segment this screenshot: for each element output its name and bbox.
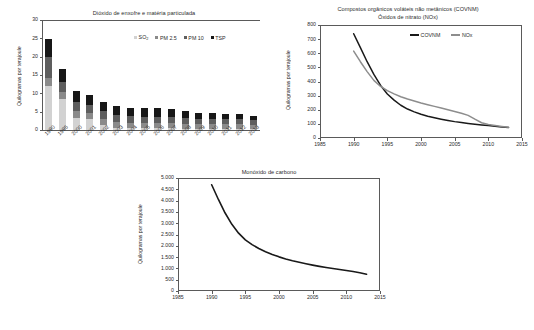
chart3-title: Monóxido de carbono — [134, 169, 404, 177]
y-tick-label: 5.000 — [154, 175, 174, 180]
y-tick-label: 500 — [154, 277, 174, 282]
bar-segment — [141, 117, 148, 123]
x-tick-label: 2000 — [414, 142, 428, 147]
bar-segment — [73, 102, 80, 111]
bar — [45, 20, 52, 130]
y-tick-label: 700 — [303, 37, 316, 42]
bar-segment — [236, 114, 243, 119]
series-line — [354, 34, 509, 128]
x-tick-label: 1995 — [238, 295, 252, 300]
chart2-title-line1: Compostos orgânicos voláteis não metânic… — [284, 6, 532, 14]
bar — [86, 20, 93, 130]
series-layer — [178, 178, 380, 291]
chart1-y-tick-label: 5 — [24, 109, 38, 114]
chart2-y-axis-label: Quilogramas por terajoule — [285, 34, 291, 126]
bar-segment — [86, 113, 93, 120]
x-tick-label: 2005 — [448, 142, 462, 147]
y-tick-label: 500 — [303, 65, 316, 70]
series-line — [212, 185, 367, 275]
x-tick-label: 2005 — [306, 295, 320, 300]
y-tick-label: 800 — [303, 22, 316, 27]
bar — [141, 20, 148, 130]
bar-segment — [195, 113, 202, 119]
x-tick-label: 2010 — [339, 295, 353, 300]
bar — [195, 20, 202, 130]
y-tick-label: 2.000 — [154, 243, 174, 248]
chart1-y-axis-label: Quilogramas por terajoule — [16, 30, 22, 122]
chart2-title-line2: Óxidos de nitrato (NOx) — [284, 14, 532, 22]
bar — [250, 20, 257, 130]
bar — [209, 20, 216, 130]
bar-segment — [127, 108, 134, 117]
chart1-y-tick — [40, 130, 43, 131]
bar — [100, 20, 107, 130]
bar-segment — [154, 117, 161, 123]
bar-segment — [250, 116, 257, 121]
bar-segment — [113, 106, 120, 115]
bar-segment — [73, 111, 80, 118]
chart3-plot-area: 05001.0001.5002.0002.5003.0003.5004.0004… — [178, 178, 380, 291]
bar-segment — [45, 57, 52, 78]
y-tick-label: 2.500 — [154, 232, 174, 237]
chart-sulfur-dioxide-particulate-matter: Dióxido de enxofre e matéria particulada… — [14, 8, 274, 168]
y-tick-label: 0 — [303, 135, 316, 140]
chart1-y-tick-label: 20 — [24, 54, 38, 59]
bar-segment — [222, 114, 229, 120]
bar-segment — [86, 95, 93, 105]
bar-segment — [100, 111, 107, 119]
y-tick-label: 600 — [303, 51, 316, 56]
y-tick-label: 1.000 — [154, 266, 174, 271]
x-tick-label: 1990 — [347, 142, 361, 147]
bar — [182, 20, 189, 130]
bar-segment — [59, 69, 66, 82]
bar-segment — [209, 113, 216, 119]
bar-segment — [45, 78, 52, 87]
chart1-y-tick — [40, 20, 43, 21]
chart1-y-tick — [40, 38, 43, 39]
chart-covnm-nox: Compostos orgânicos voláteis não metânic… — [284, 4, 532, 168]
bar-segment — [168, 109, 175, 117]
y-tick-label: 3.500 — [154, 209, 174, 214]
chart3-y-axis-label: Quilogramas por terajoule — [137, 186, 143, 282]
bar-segment — [59, 92, 66, 99]
bar-segment — [100, 102, 107, 112]
x-tick-label: 1985 — [313, 142, 327, 147]
y-tick-label: 4.000 — [154, 198, 174, 203]
chart1-y-axis — [42, 20, 43, 130]
bar — [236, 20, 243, 130]
chart2-title: Compostos orgânicos voláteis não metânic… — [284, 6, 532, 21]
y-tick-label: 3.000 — [154, 221, 174, 226]
bar — [168, 20, 175, 130]
series-line — [354, 51, 509, 127]
chart1-title: Dióxido de enxofre e matéria particulada — [14, 10, 274, 18]
x-tick-label: 2015 — [515, 142, 529, 147]
bar — [154, 20, 161, 130]
bar — [59, 20, 66, 130]
bar-segment — [59, 82, 66, 92]
bar — [73, 20, 80, 130]
chart1-y-tick — [40, 112, 43, 113]
chart1-plot-area: 0510152025301990199520002001200220032004… — [42, 20, 260, 130]
x-tick-label: 1995 — [380, 142, 394, 147]
bar-segment — [45, 39, 52, 57]
x-tick-label: 2000 — [272, 295, 286, 300]
series-layer — [320, 25, 522, 138]
x-tick-label: 1985 — [171, 295, 185, 300]
bar — [113, 20, 120, 130]
bar-segment — [113, 115, 120, 122]
bar-segment — [73, 91, 80, 102]
bar — [127, 20, 134, 130]
chart1-y-tick — [40, 57, 43, 58]
y-tick-label: 0 — [154, 288, 174, 293]
chart1-y-tick — [40, 93, 43, 94]
y-tick-label: 200 — [303, 107, 316, 112]
bar-segment — [154, 108, 161, 116]
bar-segment — [182, 111, 189, 118]
chart2-plot-area: 0100200300400500600700800198519901995200… — [320, 25, 522, 138]
chart1-y-tick — [40, 75, 43, 76]
chart1-y-tick-label: 30 — [24, 17, 38, 22]
chart1-y-tick-label: 10 — [24, 91, 38, 96]
x-tick-label: 2015 — [373, 295, 387, 300]
y-tick-label: 1.500 — [154, 255, 174, 260]
y-tick-label: 4.500 — [154, 187, 174, 192]
